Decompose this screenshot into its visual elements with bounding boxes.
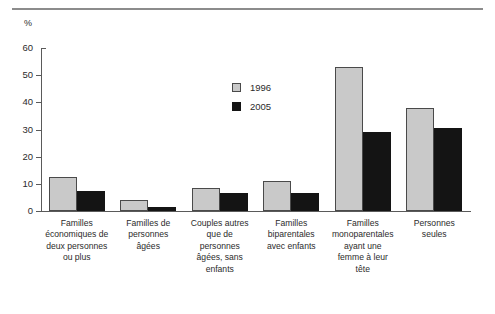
x-axis-line — [41, 211, 471, 212]
legend-item-1996: 1996 — [232, 78, 271, 97]
bar-1996-cat-4 — [263, 181, 291, 211]
y-tick-label-50: 50 — [7, 70, 33, 80]
y-tick-label-60: 60 — [7, 43, 33, 53]
y-tick-label-0: 0 — [7, 206, 33, 216]
bar-1996-cat-3 — [192, 188, 220, 211]
bar-1996-cat-5 — [335, 67, 363, 211]
bar-2005-cat-6 — [434, 128, 462, 211]
y-tick-label-30: 30 — [7, 125, 33, 135]
bar-2005-cat-1 — [77, 191, 105, 211]
bar-1996-cat-6 — [406, 108, 434, 211]
bar-2005-cat-2 — [148, 207, 176, 211]
bar-2005-cat-3 — [220, 193, 248, 211]
top-divider — [12, 8, 483, 10]
legend-label-1996: 1996 — [250, 82, 271, 93]
y-tick-label-10: 10 — [7, 179, 33, 189]
plot-area — [41, 48, 470, 211]
y-tick-label-20: 20 — [7, 152, 33, 162]
legend-swatch-1996 — [232, 83, 241, 92]
y-tick-0 — [36, 211, 42, 212]
bar-1996-cat-1 — [49, 177, 77, 211]
chart-figure: % 6050403020100 Familleséconomiques dede… — [0, 0, 495, 314]
legend-item-2005: 2005 — [232, 97, 271, 116]
legend-swatch-2005 — [232, 102, 241, 111]
category-label-6: Personnesseules — [392, 218, 478, 241]
bar-2005-cat-4 — [291, 193, 319, 211]
y-tick-label-40: 40 — [7, 97, 33, 107]
bar-1996-cat-2 — [120, 200, 148, 211]
y-axis-unit-label: % — [24, 18, 32, 29]
chart-legend: 1996 2005 — [232, 78, 271, 116]
legend-label-2005: 2005 — [250, 101, 271, 112]
bar-2005-cat-5 — [363, 132, 391, 211]
